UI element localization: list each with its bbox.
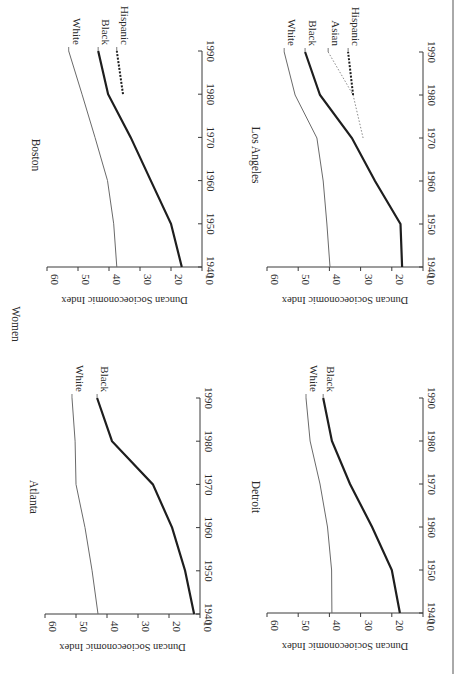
figure-page: Women Boston1940195019601970198019901020… xyxy=(0,0,457,674)
y-tick-label: 30 xyxy=(142,274,154,286)
series-label-white: White xyxy=(74,365,86,392)
series-label-black: Black xyxy=(100,19,112,45)
y-tick-label: 60 xyxy=(49,274,61,286)
series-label-black: Black xyxy=(325,366,337,392)
panel-title: Boston xyxy=(30,139,42,172)
panel-title: Los Angeles xyxy=(249,126,262,184)
y-tick-label: 30 xyxy=(363,274,375,286)
y-tick-label: 40 xyxy=(109,621,121,633)
y-tick-label: 50 xyxy=(78,621,90,633)
x-tick-label: 1950 xyxy=(426,213,438,236)
y-axis-title: Duncan Socioeconomic Index xyxy=(281,295,408,306)
series-label-white: White xyxy=(308,365,320,392)
x-tick-label: 1970 xyxy=(205,126,217,149)
y-tick-label: 10 xyxy=(202,621,214,633)
y-tick-label: 50 xyxy=(80,274,92,286)
chart-panel-los-angeles: Los Angeles19401950196019701980199010203… xyxy=(249,7,438,306)
series-line-white xyxy=(284,52,330,267)
series-label-asian: Asian xyxy=(330,20,342,46)
series-line-black xyxy=(323,398,400,613)
x-tick-label: 1950 xyxy=(203,560,215,583)
panel-title: Atlanta xyxy=(28,480,40,514)
y-tick-label: 40 xyxy=(331,620,343,632)
series-label-hispanic: Hispanic xyxy=(350,7,362,46)
y-tick-label: 30 xyxy=(363,620,375,632)
x-tick-label: 1970 xyxy=(203,473,215,496)
y-tick-label: 50 xyxy=(300,274,312,286)
x-tick-label: 1960 xyxy=(426,516,438,539)
y-tick-label: 40 xyxy=(111,274,123,286)
chart-panels: Boston1940195019601970198019901020304050… xyxy=(28,6,438,653)
y-axis-title: Duncan Socioeconomic Index xyxy=(58,642,185,653)
y-tick-label: 40 xyxy=(331,274,343,286)
x-tick-label: 1990 xyxy=(426,41,438,64)
x-tick-label: 1970 xyxy=(426,473,438,496)
x-tick-label: 1960 xyxy=(203,517,215,540)
series-label-black: Black xyxy=(307,20,319,46)
x-tick-label: 1980 xyxy=(203,430,215,453)
y-tick-label: 50 xyxy=(300,620,312,632)
x-tick-label: 1960 xyxy=(205,170,217,193)
y-tick-label: 20 xyxy=(171,621,183,633)
x-tick-label: 1950 xyxy=(426,559,438,582)
series-line-black xyxy=(98,51,182,267)
series-line-white xyxy=(72,398,98,614)
chart-panel-detroit: Detroit194019501960197019801990102030405… xyxy=(250,365,438,651)
x-tick-label: 1980 xyxy=(205,83,217,106)
x-tick-label: 1990 xyxy=(203,387,215,410)
y-tick-label: 20 xyxy=(173,274,185,286)
chart-panel-boston: Boston1940195019601970198019901020304050… xyxy=(30,6,217,306)
series-line-black xyxy=(97,398,194,614)
y-tick-label: 30 xyxy=(140,621,152,633)
series-line-hispanic xyxy=(117,51,123,94)
y-tick-label: 20 xyxy=(394,274,406,286)
x-tick-label: 1980 xyxy=(426,84,438,107)
series-label-white: White xyxy=(286,19,298,46)
x-tick-label: 1990 xyxy=(205,40,217,63)
y-tick-label: 20 xyxy=(394,620,406,632)
x-tick-label: 1960 xyxy=(426,170,438,193)
series-label-hispanic: Hispanic xyxy=(119,6,131,45)
y-tick-label: 10 xyxy=(425,620,437,632)
y-axis-title: Duncan Socioeconomic Index xyxy=(281,641,408,652)
group-label: Women xyxy=(10,306,22,342)
y-axis-title: Duncan Socioeconomic Index xyxy=(60,295,187,306)
x-tick-label: 1970 xyxy=(426,127,438,150)
panel-title: Detroit xyxy=(250,481,262,514)
series-label-white: White xyxy=(71,18,83,45)
y-tick-label: 60 xyxy=(269,274,281,286)
y-tick-label: 10 xyxy=(425,274,437,286)
y-tick-label: 60 xyxy=(47,621,59,633)
y-tick-label: 60 xyxy=(269,620,281,632)
series-line-white xyxy=(306,398,332,613)
figure-canvas: Women Boston1940195019601970198019901020… xyxy=(0,0,457,674)
series-line-hispanic xyxy=(348,52,353,95)
series-label-black: Black xyxy=(99,366,111,392)
x-tick-label: 1980 xyxy=(426,430,438,453)
chart-panel-atlanta: Atlanta194019501960197019801990102030405… xyxy=(28,365,215,652)
x-tick-label: 1950 xyxy=(205,213,217,236)
series-line-asian xyxy=(328,52,363,138)
y-tick-label: 10 xyxy=(204,274,216,286)
x-tick-label: 1990 xyxy=(426,387,438,410)
series-line-white xyxy=(69,51,117,267)
